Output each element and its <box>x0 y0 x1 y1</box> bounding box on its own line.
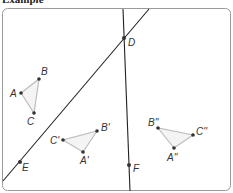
triangles-layer <box>21 79 193 152</box>
triangle-abc <box>21 79 39 113</box>
point-d <box>122 36 126 40</box>
triangle-a-double-primeb-double-primec-double-prime <box>158 128 193 148</box>
geometry-diagram: ABCA'B'C'A''B''C''DEF <box>0 0 233 193</box>
vertex-label-b-prime: B' <box>101 122 111 133</box>
point-label-e: E <box>22 162 29 173</box>
vertex-a <box>19 91 23 95</box>
vertex-c-prime <box>61 138 65 142</box>
vertex-c-double-prime <box>191 133 195 137</box>
triangle-a-primeb-primec-prime <box>63 131 97 152</box>
vertex-label-b-double-prime: B'' <box>148 117 160 128</box>
point-label-f: F <box>133 163 140 174</box>
point-f <box>127 163 131 167</box>
vertex-label-b: B <box>41 66 48 77</box>
diagram-frame <box>3 9 231 191</box>
vertex-label-a-double-prime: A'' <box>166 152 179 163</box>
vertex-c <box>32 111 36 115</box>
point-label-d: D <box>128 37 135 48</box>
vertex-b <box>37 77 41 81</box>
vertex-a-prime <box>81 150 85 154</box>
vertex-label-c-prime: C' <box>50 135 60 146</box>
vertex-label-a-prime: A' <box>79 155 90 166</box>
vertex-label-a: A <box>9 88 17 99</box>
vertex-label-c: C <box>27 116 35 127</box>
vertex-b-prime <box>95 129 99 133</box>
vertex-a-double-prime <box>172 146 176 150</box>
vertex-label-c-double-prime: C'' <box>196 126 208 137</box>
